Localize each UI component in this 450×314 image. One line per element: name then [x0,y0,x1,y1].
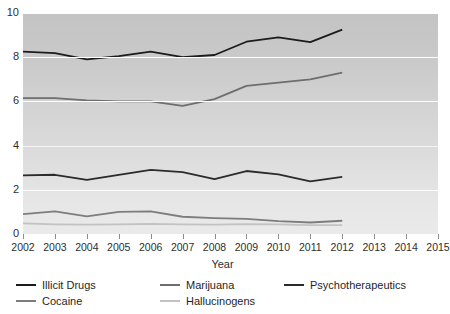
y-tick-label: 2 [0,184,19,195]
x-tick-label: 2008 [203,241,226,253]
x-tick [374,234,375,239]
gridline [23,101,438,102]
series-lines [23,13,438,234]
legend-swatch-illicit-drugs [16,284,36,286]
gridline [23,13,438,14]
x-axis-title: Year [0,258,445,270]
x-tick-label: 2014 [394,241,417,253]
series-line-psychotherapeutics [23,170,342,181]
legend-item-psychotherapeutics[interactable]: Psychotherapeutics [284,277,406,293]
series-line-cocaine [23,211,342,222]
chart-legend: Illicit DrugsMarijuanaPsychotherapeutics… [16,277,436,311]
x-tick [342,234,343,239]
legend-label-marijuana: Marijuana [186,279,234,291]
legend-item-illicit-drugs[interactable]: Illicit Drugs [16,277,96,293]
x-tick [278,234,279,239]
x-tick [183,234,184,239]
x-tick-label: 2007 [171,241,194,253]
legend-row-2: CocaineHallucinogens [16,293,436,309]
x-tick-label: 2002 [11,241,34,253]
legend-item-hallucinogens[interactable]: Hallucinogens [160,293,255,309]
x-tick [438,234,439,239]
x-tick-label: 2013 [362,241,385,253]
x-tick [151,234,152,239]
legend-row-1: Illicit DrugsMarijuanaPsychotherapeutics [16,277,436,293]
gridline [23,57,438,58]
legend-label-cocaine: Cocaine [42,295,82,307]
x-tick-label: 2005 [107,241,130,253]
x-tick-label: 2015 [426,241,449,253]
x-tick [406,234,407,239]
y-tick-label: 0 [0,228,19,239]
x-tick [23,234,24,239]
series-line-hallucinogens [23,223,342,225]
x-axis-tick-labels: 2002200320042005200620072008200920102011… [0,241,445,255]
x-axis-ticks [23,234,438,240]
y-tick-label: 6 [0,95,19,106]
x-tick-label: 2010 [267,241,290,253]
series-line-illicit-drugs [23,30,342,60]
legend-swatch-psychotherapeutics [284,284,304,286]
x-tick-label: 2004 [75,241,98,253]
legend-label-hallucinogens: Hallucinogens [186,295,255,307]
x-tick [310,234,311,239]
plot-area [23,13,438,234]
x-tick-label: 2006 [139,241,162,253]
legend-swatch-cocaine [16,300,36,302]
x-tick [55,234,56,239]
x-tick-label: 2003 [43,241,66,253]
gridline [23,190,438,191]
y-tick-label: 8 [0,51,19,62]
x-tick [246,234,247,239]
y-tick-label: 4 [0,140,19,151]
legend-label-illicit-drugs: Illicit Drugs [42,279,96,291]
legend-label-psychotherapeutics: Psychotherapeutics [310,279,406,291]
x-tick-label: 2009 [235,241,258,253]
legend-swatch-marijuana [160,284,180,286]
y-tick-label: 10 [0,7,19,18]
x-tick [119,234,120,239]
x-tick [215,234,216,239]
legend-item-marijuana[interactable]: Marijuana [160,277,234,293]
legend-item-cocaine[interactable]: Cocaine [16,293,82,309]
x-tick [87,234,88,239]
x-tick-label: 2011 [299,241,322,253]
x-tick-label: 2012 [331,241,354,253]
gridline [23,146,438,147]
legend-swatch-hallucinogens [160,300,180,302]
